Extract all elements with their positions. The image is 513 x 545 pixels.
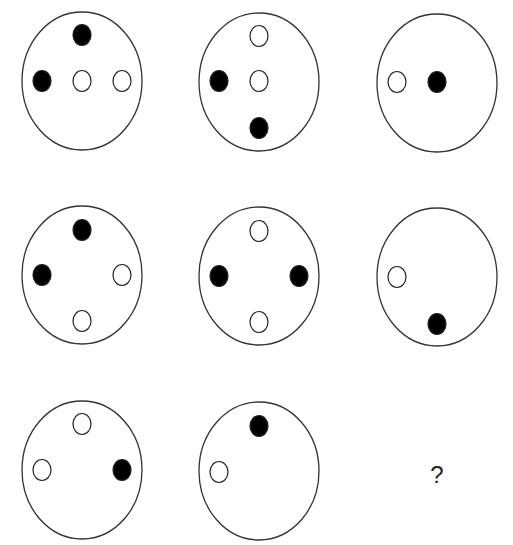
puzzle-cell [199,13,319,151]
black-dot [33,265,51,286]
black-dot [210,71,228,92]
puzzle-cell [22,401,142,539]
black-dot [250,416,268,437]
black-dot [33,71,51,92]
white-dot [388,267,406,288]
puzzle-grid: ? [0,0,513,545]
puzzle-cell [377,14,497,152]
black-dot [428,314,446,335]
black-dot [73,25,91,46]
white-dot [250,71,268,92]
question-mark: ? [430,461,443,488]
black-dot [113,460,131,481]
black-dot [73,220,91,241]
puzzle-cell [22,12,142,150]
black-dot [428,72,446,93]
black-dot [290,266,308,287]
white-dot [73,414,91,435]
puzzle-cell [22,206,142,344]
puzzle-cell [199,207,319,345]
white-dot [250,312,268,333]
black-dot [250,118,268,139]
white-dot [73,71,91,92]
white-dot [388,72,406,93]
white-dot [73,311,91,332]
white-dot [250,221,268,242]
puzzle-cell [377,208,497,346]
white-dot [33,460,51,481]
white-dot [113,71,131,92]
black-dot [210,266,228,287]
white-dot [250,26,268,47]
white-dot [210,462,228,483]
puzzle-cell [199,402,319,540]
white-dot [113,265,131,286]
